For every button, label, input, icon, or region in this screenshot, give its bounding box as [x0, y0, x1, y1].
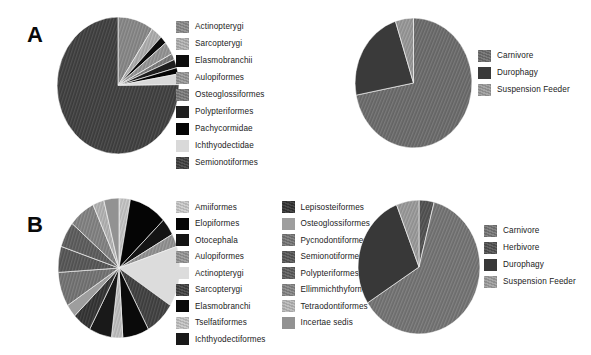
legend-item[interactable]: Incertae sedis: [282, 315, 374, 332]
pie-svg: [358, 200, 480, 334]
legend-item-label: Amiiformes: [195, 203, 237, 212]
legend-swatch-icon: [282, 267, 295, 279]
legend-a-taxa: ActinopterygiSarcopterygiElasmobranchiiA…: [176, 18, 265, 171]
legend-column: CarnivoreHerbivoreDurophagySuspension Fe…: [484, 222, 576, 290]
legend-item[interactable]: Osteoglossiformes: [176, 86, 265, 103]
legend-item-label: Suspension Feeder: [497, 85, 570, 94]
legend-item[interactable]: Elasmobranchii: [176, 52, 265, 69]
legend-b-taxa: AmiiformesElopiformesOtocephalaAulopifor…: [176, 199, 373, 348]
legend-item[interactable]: Durophagy: [478, 64, 570, 81]
legend-swatch-icon: [478, 67, 491, 79]
legend-item[interactable]: Aulopiformes: [176, 69, 265, 86]
legend-swatch-icon: [176, 267, 189, 279]
legend-swatch-icon: [176, 21, 189, 33]
legend-item[interactable]: Tetraodontiformes: [282, 298, 374, 315]
legend-swatch-icon: [484, 276, 497, 288]
pie-svg: [355, 18, 472, 148]
legend-item-label: Carnivore: [503, 226, 539, 235]
legend-item[interactable]: Ichthyodectidae: [176, 137, 265, 154]
panel-b-label: B: [27, 214, 43, 236]
legend-item[interactable]: Sarcopterygi: [176, 35, 265, 52]
legend-item-label: Incertae sedis: [301, 318, 353, 327]
legend-a-diet: CarnivoreDurophagySuspension Feeder: [478, 47, 570, 98]
legend-item[interactable]: Otocephala: [176, 232, 266, 249]
legend-item-label: Ichthyodectidae: [195, 141, 254, 150]
legend-item[interactable]: Osteoglossiformes: [282, 216, 374, 233]
legend-swatch-icon: [282, 201, 295, 213]
legend-item-label: Tselfatiformes: [195, 318, 247, 327]
legend-item[interactable]: Polypteriformes: [176, 103, 265, 120]
panel-a: A ActinopterygiSarcopterygiElasmobranchi…: [0, 0, 591, 178]
legend-item-label: Elopiformes: [195, 219, 239, 228]
legend-item[interactable]: Suspension Feeder: [484, 273, 576, 290]
legend-swatch-icon: [176, 284, 189, 296]
legend-item-label: Osteoglossiformes: [195, 90, 265, 99]
legend-item[interactable]: Pycnodontiformes: [282, 232, 374, 249]
legend-column: CarnivoreDurophagySuspension Feeder: [478, 47, 570, 98]
legend-item-label: Tetraodontiformes: [301, 302, 368, 311]
legend-item-label: Actinopterygi: [195, 269, 244, 278]
legend-item-label: Ichthyodectiformes: [195, 335, 266, 344]
legend-item[interactable]: Suspension Feeder: [478, 81, 570, 98]
legend-item[interactable]: Tselfatiformes: [176, 315, 266, 332]
legend-swatch-icon: [176, 123, 189, 135]
legend-item-label: Polypteriformes: [195, 107, 253, 116]
legend-item-label: Sarcopterygi: [195, 285, 242, 294]
legend-item-label: Sarcopterygi: [195, 39, 242, 48]
legend-column-1: AmiiformesElopiformesOtocephalaAulopifor…: [176, 199, 266, 348]
legend-item-label: Carnivore: [497, 51, 533, 60]
legend-item[interactable]: Carnivore: [478, 47, 570, 64]
panel-a-label: A: [27, 24, 43, 46]
legend-item-label: Actinopterygi: [195, 22, 244, 31]
legend-swatch-icon: [282, 218, 295, 230]
pie-chart-b-taxa: [58, 198, 180, 338]
legend-item[interactable]: Carnivore: [484, 222, 576, 239]
legend-swatch-icon: [176, 300, 189, 312]
legend-swatch-icon: [176, 251, 189, 263]
legend-swatch-icon: [478, 84, 491, 96]
legend-item[interactable]: Actinopterygi: [176, 265, 266, 282]
legend-item[interactable]: Ichthyodectiformes: [176, 331, 266, 348]
legend-item-label: Pycnodontiformes: [301, 236, 368, 245]
legend-item-label: Durophagy: [503, 260, 544, 269]
panel-b: B AmiiformesElopiformesOtocephalaAulopif…: [0, 178, 591, 355]
legend-item-label: Osteoglossiformes: [301, 219, 371, 228]
legend-item[interactable]: Herbivore: [484, 239, 576, 256]
legend-item[interactable]: Elopiformes: [176, 216, 266, 233]
legend-swatch-icon: [282, 234, 295, 246]
legend-item[interactable]: Lepisosteiformes: [282, 199, 374, 216]
legend-item[interactable]: Amiiformes: [176, 199, 266, 216]
legend-item-label: Semionotiformes: [195, 158, 258, 167]
legend-swatch-icon: [282, 284, 295, 296]
legend-swatch-icon: [176, 55, 189, 67]
legend-item-label: Elasmobranchii: [195, 56, 252, 65]
legend-swatch-icon: [484, 225, 497, 237]
pie-chart-b-diet: [358, 200, 480, 334]
legend-swatch-icon: [478, 50, 491, 62]
legend-item[interactable]: Durophagy: [484, 256, 576, 273]
legend-item[interactable]: Semionotiformes: [176, 154, 265, 171]
legend-item[interactable]: Pachycormidae: [176, 120, 265, 137]
legend-item[interactable]: Actinopterygi: [176, 18, 265, 35]
legend-swatch-icon: [176, 89, 189, 101]
legend-swatch-icon: [176, 333, 189, 345]
legend-b-diet: CarnivoreHerbivoreDurophagySuspension Fe…: [484, 222, 576, 290]
legend-item[interactable]: Aulopiformes: [176, 249, 266, 266]
legend-swatch-icon: [484, 242, 497, 254]
legend-item-label: Elasmobranchi: [195, 302, 250, 311]
legend-item-label: Polypteriformes: [301, 269, 359, 278]
legend-item-label: Herbivore: [503, 243, 539, 252]
pie-svg: [58, 198, 180, 338]
legend-swatch-icon: [176, 201, 189, 213]
legend-swatch-icon: [282, 300, 295, 312]
legend-item-label: Suspension Feeder: [503, 277, 576, 286]
legend-item-label: Aulopiformes: [195, 73, 244, 82]
legend-item-label: Durophagy: [497, 68, 538, 77]
legend-item-label: Semionotiformes: [301, 252, 364, 261]
legend-item-label: Otocephala: [195, 236, 238, 245]
legend-swatch-icon: [176, 72, 189, 84]
pie-chart-a-diet: [355, 18, 472, 148]
legend-item[interactable]: Sarcopterygi: [176, 282, 266, 299]
legend-swatch-icon: [176, 234, 189, 246]
legend-item[interactable]: Elasmobranchi: [176, 298, 266, 315]
